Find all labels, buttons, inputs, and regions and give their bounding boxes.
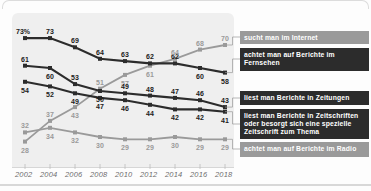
value-label-radio-2018: 29: [221, 144, 229, 151]
data-point-newspapers-2008: [98, 89, 102, 93]
value-label-magazines-2004: 52: [46, 91, 54, 98]
data-point-radio-2014: [173, 135, 177, 139]
data-point-newspapers-2006: [73, 82, 77, 86]
value-label-internet-2018: 70: [221, 35, 229, 42]
data-point-magazines-2014: [173, 107, 177, 111]
value-label-tv-2004: 73: [46, 28, 54, 35]
data-point-magazines-2012: [148, 103, 152, 107]
data-point-radio-2006: [73, 130, 77, 134]
data-point-tv-2010: [123, 59, 127, 63]
x-tick-2002: 2002: [15, 170, 33, 179]
data-point-tv-2002: [23, 36, 27, 40]
legend-item-fernsehen[interactable]: achtet man auf Berichte im Fernsehen: [240, 48, 369, 71]
x-tick-2012: 2012: [140, 170, 158, 179]
data-point-magazines-2010: [123, 98, 127, 102]
data-point-radio-2010: [123, 137, 127, 141]
value-label-magazines-2002: 54: [21, 87, 29, 94]
value-label-magazines-2014: 42: [171, 114, 179, 121]
value-label-newspapers-2004: 60: [46, 73, 54, 80]
value-label-tv-2006: 69: [71, 37, 79, 44]
value-label-newspapers-2012: 48: [146, 86, 154, 93]
chart-root: 200220042006200820102012201420162018 73%…: [0, 0, 371, 191]
value-label-newspapers-2018: 43: [221, 97, 229, 104]
data-point-internet-2006: [73, 105, 77, 109]
value-label-internet-2004: 37: [46, 111, 54, 118]
value-label-internet-2006: 43: [71, 112, 79, 119]
data-point-internet-2002: [23, 140, 27, 144]
value-label-radio-2016: 29: [196, 144, 204, 151]
data-point-magazines-2016: [198, 107, 202, 111]
value-label-tv-2010: 63: [121, 51, 129, 58]
data-point-radio-2004: [48, 126, 52, 130]
value-label-magazines-2010: 46: [121, 105, 129, 112]
value-label-tv-2008: 64: [96, 49, 104, 56]
data-point-internet-2010: [123, 73, 127, 77]
value-label-newspapers-2016: 46: [196, 90, 204, 97]
x-tick-2004: 2004: [40, 170, 58, 179]
x-tick-2006: 2006: [65, 170, 83, 179]
value-label-radio-2010: 29: [121, 144, 129, 151]
data-point-newspapers-2004: [48, 66, 52, 70]
value-label-internet-2002: 28: [21, 147, 29, 154]
data-point-radio-2002: [23, 130, 27, 134]
value-label-magazines-2008: 47: [96, 103, 104, 110]
value-label-magazines-2012: 44: [146, 110, 154, 117]
value-label-newspapers-2010: 49: [121, 83, 129, 90]
legend: sucht man im Internet achtet man auf Ber…: [240, 0, 371, 191]
value-label-radio-2008: 30: [96, 142, 104, 149]
value-label-tv-2012: 62: [146, 53, 154, 60]
x-tick-2010: 2010: [115, 170, 133, 179]
data-point-newspapers-2010: [123, 91, 127, 95]
value-label-radio-2014: 30: [171, 142, 179, 149]
value-label-tv-2016: 60: [196, 73, 204, 80]
value-label-radio-2004: 34: [46, 133, 54, 140]
legend-item-zeitschriften[interactable]: liest man Berichte in Zeitschriften oder…: [240, 109, 369, 139]
value-label-newspapers-2014: 47: [171, 88, 179, 95]
series-layer: [23, 36, 240, 169]
value-label-internet-2008: 51: [96, 79, 104, 86]
data-point-internet-2016: [198, 48, 202, 52]
legend-item-zeitungen[interactable]: liest man Berichte in Zeitungen: [240, 91, 369, 105]
data-point-tv-2014: [173, 61, 177, 65]
legend-item-internet[interactable]: sucht man im Internet: [240, 31, 369, 44]
value-label-internet-2016: 68: [196, 40, 204, 47]
data-point-newspapers-2012: [148, 94, 152, 98]
data-point-radio-2008: [98, 135, 102, 139]
data-point-internet-2004: [48, 119, 52, 123]
value-label-internet-2012: 61: [146, 71, 154, 78]
value-label-radio-2002: 32: [21, 122, 29, 129]
value-label-newspapers-2002: 61: [21, 56, 29, 63]
x-tick-2014: 2014: [165, 170, 183, 179]
data-point-magazines-2002: [23, 80, 27, 84]
x-tick-2008: 2008: [90, 170, 108, 179]
leader-line-1: [225, 59, 240, 73]
data-point-tv-2012: [148, 61, 152, 65]
data-point-magazines-2006: [73, 91, 77, 95]
data-point-tv-2004: [48, 36, 52, 40]
value-label-internet-2014: 64: [171, 49, 179, 56]
value-label-radio-2006: 32: [71, 137, 79, 144]
value-label-magazines-2006: 49: [71, 98, 79, 105]
data-point-magazines-2004: [48, 84, 52, 88]
value-label-magazines-2016: 42: [196, 114, 204, 121]
data-point-radio-2012: [148, 137, 152, 141]
data-point-tv-2008: [98, 57, 102, 61]
data-point-newspapers-2016: [198, 98, 202, 102]
data-point-tv-2016: [198, 66, 202, 70]
value-label-tv-2018: 58: [221, 78, 229, 85]
x-tick-2018: 2018: [215, 170, 233, 179]
value-label-radio-2012: 29: [146, 144, 154, 151]
legend-item-radio[interactable]: achtet man auf Berichte im Radio: [240, 142, 369, 157]
data-point-tv-2006: [73, 45, 77, 49]
x-axis-tick-labels: 200220042006200820102012201420162018: [0, 170, 240, 184]
x-tick-2016: 2016: [190, 170, 208, 179]
data-point-radio-2016: [198, 137, 202, 141]
value-label-newspapers-2006: 53: [71, 74, 79, 81]
data-point-newspapers-2014: [173, 96, 177, 100]
value-label-tv-2002: 73%: [16, 28, 30, 35]
data-point-newspapers-2002: [23, 64, 27, 68]
value-label-magazines-2018: 41: [221, 117, 229, 124]
